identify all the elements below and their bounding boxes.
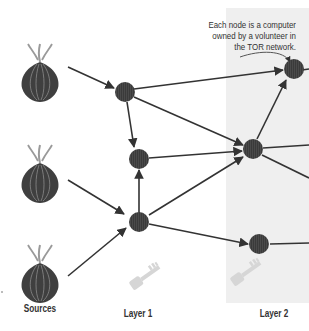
- edge-l1top-l2mid: [134, 97, 243, 145]
- node-l1-top: [115, 82, 135, 102]
- node-l1-mid: [129, 149, 149, 169]
- node-l2-mid: [243, 139, 263, 159]
- edge-l2bottom-out: [270, 243, 309, 244]
- edge-l1bottom-l2bottom: [149, 224, 248, 244]
- annotation-line-1: Each node is a computer: [199, 20, 296, 31]
- edge-l1top-l2top: [134, 70, 283, 89]
- sources-label: Sources: [24, 303, 57, 314]
- annotation-line-2: owned by a volunteer in: [199, 31, 296, 42]
- edge-source3-l1bottom: [68, 228, 126, 276]
- edge-source1-l1top: [68, 67, 114, 88]
- source-onion-2: [22, 145, 59, 203]
- annotation-line-3: the TOR network.: [199, 42, 296, 53]
- layer2-label: Layer 2: [258, 308, 291, 319]
- node-l2-top: [284, 59, 304, 79]
- node-annotation: Each node is a computer owned by a volun…: [199, 20, 296, 53]
- node-l1-bottom: [129, 212, 149, 232]
- key-icon: [228, 257, 263, 287]
- source-onion-3: [22, 245, 59, 303]
- key-icon: [127, 261, 162, 291]
- edge-l1bottom-l2mid: [149, 157, 243, 215]
- edge-l2mid-out-2: [262, 155, 309, 178]
- edge-l2mid-out-1: [263, 145, 309, 148]
- edges: [68, 67, 309, 276]
- layer1-label: Layer 1: [122, 308, 155, 319]
- node-l2-bottom: [249, 234, 269, 254]
- stray-mark: [1, 291, 3, 293]
- edge-l1top-l1mid: [127, 102, 134, 147]
- edge-source2-l1bottom: [68, 180, 124, 214]
- edge-l1mid-l2mid: [149, 151, 242, 158]
- annotation-pointer-arrow: [240, 52, 290, 62]
- edge-l2mid-l2top: [257, 80, 286, 139]
- tor-network-diagram: Each node is a computer owned by a volun…: [0, 0, 309, 331]
- source-onion-1: [22, 44, 59, 102]
